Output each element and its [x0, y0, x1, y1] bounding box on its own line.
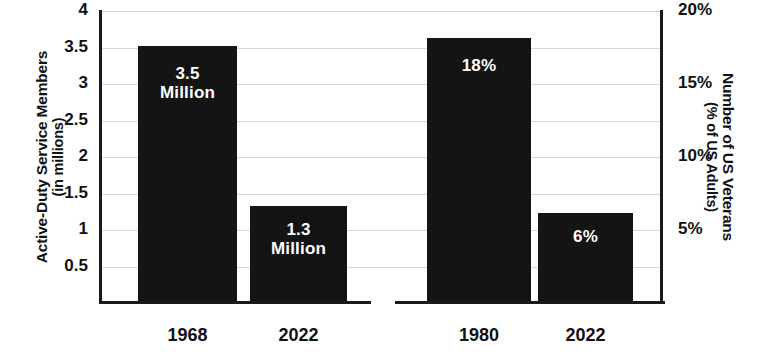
bar-value-label: 1.3Million: [250, 220, 347, 258]
bar[interactable]: 6%: [538, 213, 633, 301]
bar-value-label-line: 18%: [427, 56, 531, 75]
left-axis-tick-label: 0.5: [64, 256, 88, 276]
left-axis-tick-label: 1: [79, 219, 88, 239]
bar-value-label-line: 6%: [538, 227, 633, 246]
bar-value-label: 6%: [538, 227, 633, 246]
right-axis-tick-label: 5%: [678, 219, 703, 239]
right-chart-x-axis-spine: [395, 301, 665, 304]
bar-value-label: 18%: [427, 56, 531, 75]
bar[interactable]: 3.5Million: [138, 46, 237, 302]
bar[interactable]: 18%: [427, 38, 531, 301]
category-label: 2022: [526, 325, 645, 346]
right-axis-tick-label: 15%: [678, 73, 712, 93]
left-axis-tick-label: 4: [79, 0, 88, 20]
left-axis-tick-label: 3: [79, 73, 88, 93]
bar-value-label-line: 1.3: [250, 220, 347, 239]
bar-value-label-line: Million: [138, 83, 237, 102]
left-axis-tick-label: 2.5: [64, 110, 88, 130]
bar[interactable]: 1.3Million: [250, 206, 347, 301]
right-axis-tick-label: 20%: [678, 0, 712, 20]
left-axis-tick-label: 1.5: [64, 183, 88, 203]
chart-figure: Active-Duty Service Members (in millions…: [0, 0, 771, 352]
category-label: 2022: [238, 325, 359, 346]
left-chart-panel: 3.5Million19681.3Million2022: [99, 0, 371, 352]
left-axis-title-main: Active-Duty Service Members: [33, 12, 50, 302]
left-axis-tick-labels: 43.532.521.510.5: [56, 0, 96, 352]
bar-value-label-line: Million: [250, 239, 347, 258]
left-axis-tick-label: 2: [79, 146, 88, 166]
right-axis-tick-labels: 20%15%10%5%: [670, 0, 726, 352]
left-chart-x-axis-spine: [99, 301, 371, 304]
category-label: 1968: [126, 325, 249, 346]
category-label: 1980: [415, 325, 543, 346]
bar-value-label: 3.5Million: [138, 64, 237, 102]
right-chart-panel: 18%19806%2022: [395, 0, 663, 352]
left-chart-y-axis-spine: [99, 10, 102, 304]
bar-value-label-line: 3.5: [138, 64, 237, 83]
right-chart-y-axis-spine: [660, 10, 663, 304]
left-axis-tick-label: 3.5: [64, 37, 88, 57]
right-axis-tick-label: 10%: [678, 146, 712, 166]
